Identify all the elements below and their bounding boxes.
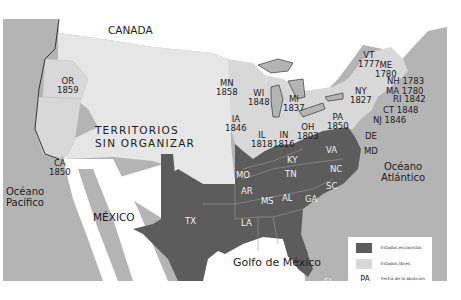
state-label-al: AL [282,194,293,203]
state-label-in: IN1816 [273,131,295,148]
state-label-sc: SC [326,182,337,191]
state-label-il: IL1818 [251,131,273,148]
state-label-de: DE [365,132,377,141]
state-label-tn: TN [285,170,297,179]
state-label-ms: MS [261,197,274,206]
label-canada: CANADA [108,25,153,36]
legend-label-abolition: Fecha de la aboliciónde la esclavitud [381,277,425,281]
state-label-ia: IA1846 [225,115,247,132]
state-label-ar: AR [241,187,253,196]
legend-example: PA1850 [355,276,375,281]
label-territories-1: TERRITORIOS [95,125,179,136]
legend-label-slave: Estados esclavistas [381,246,422,251]
state-label-wi: WI1848 [248,89,270,106]
state-label-oh: OH1803 [297,123,319,140]
state-label-tx: TX [185,217,196,226]
state-label-nc: NC [330,165,342,174]
state-label-ny: NY1827 [350,87,372,104]
state-label-va: VA [326,146,337,155]
state-label-pa: PA1850 [327,113,349,130]
label-gulf-of-mexico: Golfo de México [233,257,321,268]
label-pacific-2: Pacífico [6,198,44,208]
legend-swatch-free [356,259,372,269]
label-territories-2: SIN ORGANIZAR [95,138,195,149]
state-label-nj: NJ 1846 [373,116,406,125]
state-label-or: OR1859 [57,77,79,94]
state-label-mi: MI1837 [283,95,305,112]
state-label-ca: CA1850 [49,159,71,176]
state-label-md: MD [364,147,378,156]
label-atlantic-1: Océano [384,162,422,172]
state-label-ri: RI 1842 [393,95,426,104]
state-label-nh: NH 1783 [387,77,424,86]
map-frame: CANADA MÉXICO TERRITORIOS SIN ORGANIZAR … [3,19,447,281]
legend-swatch-slave [356,243,372,253]
state-label-ct: CT 1848 [383,106,418,115]
state-label-la: LA [241,219,252,228]
state-label-ga: GA [305,195,317,204]
map-legend: Estados esclavistas Estados libres PA185… [348,237,432,281]
state-label-mo: MO [236,171,250,180]
state-label-mn: MN1858 [216,79,238,96]
legend-label-free: Estados libres [381,262,410,267]
state-label-ky: KY [287,156,297,165]
label-atlantic-2: Atlántico [381,173,425,183]
label-pacific-1: Océano [6,187,44,197]
state-label-fl: FL [324,278,334,281]
label-mexico: MÉXICO [93,212,135,223]
